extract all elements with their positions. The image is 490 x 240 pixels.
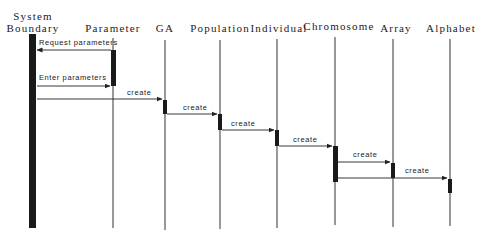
activation-individual [275,130,279,146]
activation-array [391,163,395,178]
activation-chromosome [333,146,338,182]
message-label-create-population: create [183,103,207,112]
sequence-diagram: System Boundary Parameter GA Population … [0,0,490,240]
activation-ga [163,100,167,114]
message-label-request-parameters: Request parameters [39,38,118,47]
activation-population [218,114,222,130]
activation-alphabet [448,179,452,193]
message-label-enter-parameters: Enter parameters [39,73,107,82]
system-boundary-bar [29,34,36,228]
message-label-create-array: create [353,150,377,159]
message-label-create-chromosome: create [293,135,317,144]
message-label-create-alphabet: create [405,166,429,175]
activation-parameter [111,50,116,86]
message-label-create-individual: create [231,119,255,128]
message-label-create-ga: create [127,88,151,97]
